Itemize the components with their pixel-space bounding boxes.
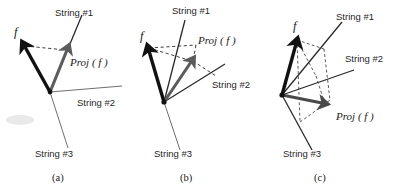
string-1-line — [164, 20, 185, 102]
string-2-line — [50, 86, 122, 92]
string-3-label: String #3 — [154, 148, 192, 159]
projection-vector — [282, 95, 322, 103]
projection-label: Proj ( f ) — [197, 34, 236, 47]
force-label: f — [14, 25, 19, 39]
string-2-label: String #2 — [77, 97, 115, 108]
panel-c-caption: (c) — [314, 172, 326, 184]
construction-dashed-line — [25, 46, 66, 50]
panel-a-caption: (a) — [52, 172, 64, 184]
string-1-label: String #1 — [336, 11, 374, 22]
force-vector — [149, 51, 164, 102]
projection-vector — [50, 50, 67, 92]
string-3-line — [50, 92, 68, 148]
projection-vector — [164, 62, 191, 102]
origin-point — [48, 90, 53, 95]
string-3-line — [282, 95, 312, 150]
string-3-line — [164, 102, 180, 150]
string-2-label: String #2 — [345, 53, 383, 64]
origin-point — [161, 99, 166, 104]
panel-a: f Proj ( f ) String #1 String #2 String … — [0, 0, 132, 192]
force-vector — [25, 47, 50, 92]
panel-b-caption: (b) — [180, 172, 193, 184]
paper-smudge — [6, 115, 34, 125]
panel-c: f Proj ( f ) String #1 String #2 String … — [258, 0, 397, 192]
construction-dashed-6 — [300, 104, 325, 122]
string-2-label: String #2 — [212, 79, 250, 90]
figure-container: f Proj ( f ) String #1 String #2 String … — [0, 0, 397, 192]
string-3-label: String #3 — [283, 148, 321, 159]
string-3-label: String #3 — [35, 148, 73, 159]
construction-dashed-lower — [193, 61, 216, 76]
string-1-label: String #1 — [55, 7, 93, 18]
force-label: f — [293, 19, 298, 33]
force-label: f — [140, 29, 145, 43]
construction-dashed-top — [149, 45, 196, 48]
projection-label: Proj ( f ) — [69, 56, 108, 69]
construction-dashed-4 — [324, 49, 330, 100]
origin-point — [279, 92, 284, 97]
string-1-label: String #1 — [172, 5, 210, 16]
construction-dashed-3 — [297, 40, 300, 122]
construction-dashed-right — [193, 45, 196, 61]
construction-dashed-diagonal — [149, 48, 195, 62]
construction-dashed-1 — [297, 40, 324, 49]
projection-label: Proj ( f ) — [335, 110, 374, 123]
construction-dashed-7 — [325, 100, 330, 104]
panel-b: f Proj ( f ) String #1 String #2 String … — [126, 0, 258, 192]
